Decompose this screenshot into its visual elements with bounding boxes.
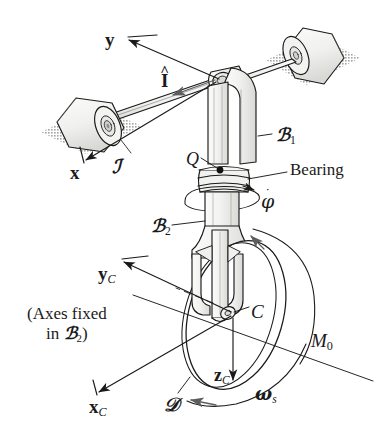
axis-xC-subscript: C bbox=[99, 405, 107, 419]
omega-subscript: s bbox=[272, 393, 276, 405]
moment-label-M0: M0 bbox=[311, 331, 333, 353]
elbow-bend-plate bbox=[224, 68, 256, 164]
body-B1-letter: ℬ bbox=[276, 124, 290, 145]
figure-artwork bbox=[0, 0, 390, 448]
bearing-label: Bearing bbox=[290, 161, 344, 178]
axes-fixed-in: in bbox=[46, 324, 63, 343]
moment-subscript: 0 bbox=[327, 339, 333, 353]
axis-zC-subscript: C bbox=[222, 374, 230, 386]
body-label-B1: ℬ1 bbox=[276, 126, 296, 147]
hat-accent-icon: ^ bbox=[160, 63, 169, 78]
body-label-B2: ℬ2 bbox=[151, 217, 171, 238]
axis-label-yC: yC bbox=[98, 264, 116, 286]
disk-label-D: 𝒟 bbox=[164, 395, 179, 414]
vertical-post-upper bbox=[208, 82, 228, 164]
axis-zC-letter: z bbox=[214, 365, 222, 385]
axis-yC-letter: y bbox=[98, 263, 108, 284]
leader-B1 bbox=[258, 134, 272, 136]
point-label-Q: Q bbox=[186, 150, 199, 168]
axes-fixed-line2: in ℬ2) bbox=[27, 325, 107, 344]
angular-rate-label-phi-dot: ˙ φ bbox=[261, 192, 274, 211]
axis-yC-subscript: C bbox=[108, 272, 116, 286]
axis-label-zC: zC bbox=[214, 366, 230, 387]
axis-xC-letter: x bbox=[89, 396, 99, 417]
axis-label-x: x bbox=[70, 163, 80, 182]
point-Q-marker bbox=[217, 167, 224, 174]
dot-accent-icon: ˙ bbox=[265, 186, 269, 199]
axes-fixed-close-paren: ) bbox=[82, 324, 88, 343]
axis-arrow-y bbox=[128, 35, 219, 79]
engineering-figure: y ^ I x ℐ ℬ1 Q Bearing ˙ φ ℬ2 yC (Axes f… bbox=[0, 0, 390, 448]
point-label-C: C bbox=[251, 302, 264, 321]
body-B2-subscript: 2 bbox=[165, 225, 171, 237]
spin-rate-label-omega-s: ωs bbox=[255, 385, 277, 406]
leader-bearing bbox=[248, 172, 287, 179]
axes-fixed-B2-letter: ℬ bbox=[64, 323, 77, 343]
unit-vector-label-i-hat: ^ I bbox=[161, 71, 168, 90]
post-lower-B2 bbox=[205, 192, 239, 230]
omega-letter: ω bbox=[255, 383, 272, 404]
axis-label-y: y bbox=[105, 30, 115, 49]
leader-frame-J bbox=[121, 140, 131, 153]
body-B2-letter: ℬ bbox=[151, 215, 165, 236]
leader-disk-D bbox=[178, 377, 190, 393]
roller-left bbox=[57, 98, 127, 152]
roller-right bbox=[278, 28, 344, 84]
body-B1-subscript: 1 bbox=[290, 134, 296, 146]
axes-fixed-note: (Axes fixed in ℬ2) bbox=[27, 305, 107, 344]
leader-B2 bbox=[172, 221, 205, 225]
frame-label-J: ℐ bbox=[112, 157, 121, 176]
moment-M-letter: M bbox=[311, 330, 327, 351]
axis-label-xC: xC bbox=[89, 397, 107, 419]
axes-fixed-line1: (Axes fixed bbox=[27, 305, 107, 322]
